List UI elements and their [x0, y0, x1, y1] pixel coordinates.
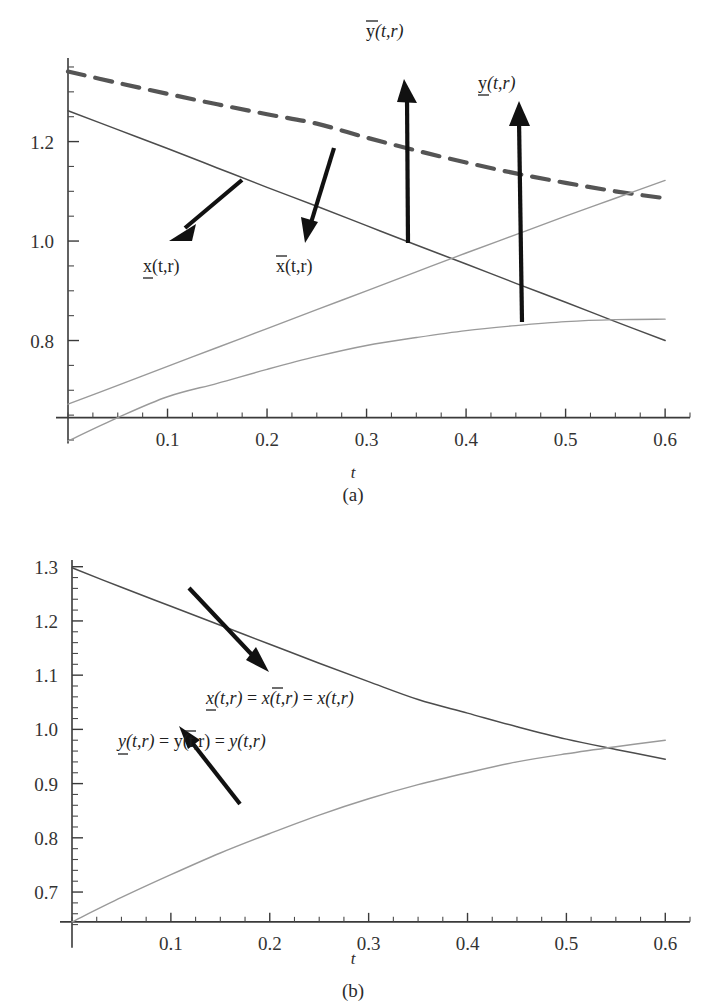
ytick-label: 0.8: [30, 331, 54, 352]
ytick-label: 0.8: [34, 828, 58, 849]
svg-text:y(t,r): y(t,r): [478, 73, 516, 94]
ytick-label: 1.1: [34, 665, 58, 686]
panel-a-plot: 0.10.20.30.40.50.61.21.00.8: [0, 0, 707, 505]
eq-y-term1: y(t,r): [116, 731, 154, 752]
ytick-label: 1.2: [30, 132, 54, 153]
label-y-lower-base: y: [478, 73, 487, 93]
label-y-lower-suffix: (t,r): [487, 73, 516, 94]
panel-b-plot: 0.10.20.30.40.50.61.31.21.11.00.90.80.7 …: [0, 500, 707, 1007]
label-y-upper-base: y: [366, 21, 375, 41]
xtick-label: 0.6: [653, 429, 677, 450]
panel-b-xlabel: t: [351, 949, 357, 968]
panel-a-xlabel: t: [351, 463, 357, 482]
svg-text:x(t,r): x(t,r): [143, 256, 179, 277]
eq-y-term3: y(t,r): [227, 731, 265, 752]
arrow-y-upper: [397, 79, 417, 243]
ytick-label: 0.9: [34, 774, 58, 795]
label-x-lower: x(t,r): [143, 256, 179, 278]
label-x-upper: x(t,r): [276, 256, 312, 277]
ytick-label: 1.3: [34, 557, 58, 578]
curve-y-upper: [68, 71, 665, 198]
xtick-label: 0.1: [156, 429, 180, 450]
label-y-upper-suffix: (t,r): [375, 21, 404, 42]
curve-y-lower: [68, 180, 665, 404]
panel-a: 0.10.20.30.40.50.61.21.00.8: [0, 0, 707, 505]
eq-y-op2: =: [210, 731, 229, 751]
eq-x-term1: x(t,r): [205, 688, 242, 709]
label-x-upper-base: x: [276, 256, 285, 276]
eq-x-op1: =: [242, 688, 261, 708]
arrow-x-lower: [169, 180, 242, 241]
arrow-y-lower: [509, 101, 530, 322]
label-x-lower-base: x: [143, 256, 152, 276]
xtick-label: 0.5: [554, 429, 578, 450]
svg-text:x(t,r): x(t,r): [276, 256, 312, 277]
panel-b-caption: (b): [342, 980, 364, 1002]
xtick-label: 0.5: [555, 933, 579, 954]
xtick-label: 0.4: [454, 429, 478, 450]
xtick-label: 0.3: [357, 933, 381, 954]
panel-b-axes: 0.10.20.30.40.50.61.31.21.11.00.90.80.7: [34, 557, 690, 954]
xtick-label: 0.1: [159, 933, 183, 954]
arrow-x-upper: [301, 148, 334, 243]
ytick-label: 1.2: [34, 611, 58, 632]
curve-x-lower: [68, 111, 665, 341]
eq-x-op2: =: [298, 688, 317, 708]
label-x-lower-suffix: (t,r): [152, 256, 179, 277]
ytick-label: 1.0: [34, 719, 58, 740]
label-y-equality: y(t,r) = y(t,r) = y(t,r): [116, 731, 266, 754]
panel-a-axes: 0.10.20.30.40.50.61.21.00.8: [30, 58, 690, 450]
eq-x-term2: x(t,r): [261, 688, 298, 709]
ytick-label: 1.0: [30, 231, 54, 252]
eq-y-op1: =: [154, 731, 173, 751]
eq-y-term2: y(t,r): [174, 731, 210, 752]
svg-text:x(t,r) = x(t,r) = x(t,r): x(t,r) = x(t,r) = x(t,r): [205, 688, 354, 709]
arrow-x-equality: [189, 588, 269, 672]
xtick-label: 0.3: [355, 429, 379, 450]
label-y-lower: y(t,r): [478, 73, 516, 95]
curve-x-upper: [68, 319, 665, 441]
ytick-label: 0.7: [34, 882, 58, 903]
svg-text:y(t,r): y(t,r): [366, 21, 404, 42]
xtick-label: 0.2: [255, 429, 279, 450]
label-x-equality: x(t,r) = x(t,r) = x(t,r): [205, 688, 354, 710]
figure-container: 0.10.20.30.40.50.61.21.00.8: [0, 0, 707, 1007]
label-y-upper: y(t,r): [366, 21, 404, 42]
xtick-label: 0.6: [653, 933, 677, 954]
curve-y-crisp: [72, 740, 665, 922]
panel-b: 0.10.20.30.40.50.61.31.21.11.00.90.80.7 …: [0, 500, 707, 1007]
label-x-upper-suffix: (t,r): [285, 256, 312, 277]
xtick-label: 0.2: [258, 933, 282, 954]
eq-x-term3: x(t,r): [316, 688, 353, 709]
svg-text:y(t,r) = y(t,r) = y(t,r): y(t,r) = y(t,r) = y(t,r): [116, 731, 266, 752]
xtick-label: 0.4: [456, 933, 480, 954]
